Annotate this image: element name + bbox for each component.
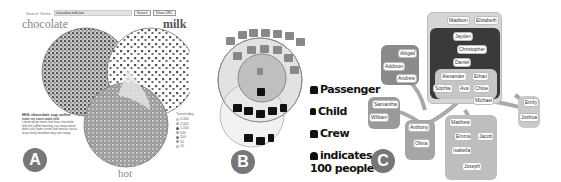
passenger-icon [310, 86, 318, 94]
name-madison: Madison [447, 16, 470, 25]
panel-c-name-sets: Madison Elizabeth Jayden Christopher Dan… [370, 0, 561, 182]
name-ava: Ava [458, 84, 471, 93]
name-joseph: Joseph [462, 162, 482, 171]
name-ethan: Ethan [472, 72, 489, 81]
person-icon [310, 152, 318, 160]
name-andrew: Andrew [396, 74, 417, 83]
name-michael: Michael [473, 96, 494, 105]
child-icon [310, 108, 316, 115]
crew-icon [310, 130, 318, 138]
name-alexander: Alexander [440, 72, 467, 81]
name-emma: Emma [454, 132, 472, 141]
name-samantha: Samantha [372, 100, 399, 109]
name-matthew: Matthew [449, 118, 472, 127]
name-emily: Emily [523, 98, 539, 107]
tweet-article: Milk chocolate cup coffee made my sweet … [22, 113, 78, 135]
name-joshua: Joshua [519, 113, 539, 122]
name-christopher: Christopher [457, 45, 487, 54]
panel-b-titanic-venn: Passenger Child Crew indicates 100 peopl… [190, 0, 370, 182]
name-addison: Addison [383, 62, 405, 71]
article-body: Lorem ipsum tweet text lines chocolate m… [22, 121, 78, 135]
name-daniel: Daniel [453, 58, 471, 67]
panel-badge-a: A [23, 148, 47, 172]
name-sophia: Sophia [433, 84, 453, 93]
panel-badge-b: B [231, 150, 255, 174]
article-title: Milk chocolate cup coffee [22, 113, 78, 117]
name-abigail: Abigail [398, 49, 417, 58]
panel-badge-c: C [371, 149, 395, 173]
name-olivia: Olivia [413, 139, 430, 148]
panel-a-tweet-venn: Search Terms: chocolate,milk,hot Search … [0, 0, 190, 182]
name-jacob: Jacob [477, 132, 494, 141]
name-william: William [369, 113, 389, 122]
name-jayden: Jayden [453, 32, 473, 41]
name-elizabeth: Elizabeth [474, 16, 499, 25]
name-anthony: Anthony [408, 123, 430, 132]
name-chloe: Chloe [473, 84, 490, 93]
name-isabella: Isabella [451, 146, 472, 155]
